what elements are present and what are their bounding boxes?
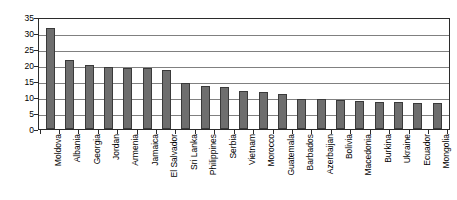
bar bbox=[413, 103, 422, 129]
bar-slot bbox=[176, 19, 195, 129]
bar-slot bbox=[99, 19, 118, 129]
bar bbox=[375, 102, 384, 129]
bar bbox=[355, 101, 364, 129]
plot-area bbox=[38, 18, 450, 130]
bar-slot bbox=[292, 19, 311, 129]
bar bbox=[239, 91, 248, 129]
x-axis-label-slot: Ecuador bbox=[409, 134, 428, 198]
bar bbox=[317, 99, 326, 129]
y-axis-tick-labels: 05101520253035 bbox=[0, 18, 34, 130]
x-axis-label-slot: Mongolia bbox=[428, 134, 447, 198]
x-axis-category-labels: MoldovaAlbaniaGeorgiaJordanArmeniaJamaic… bbox=[38, 134, 450, 198]
bar-slot bbox=[196, 19, 215, 129]
x-axis-label-slot: Jordan bbox=[98, 134, 117, 198]
x-axis-label-slot: Ukraine bbox=[390, 134, 409, 198]
bar bbox=[201, 86, 210, 129]
bar bbox=[220, 87, 229, 129]
bar bbox=[123, 68, 132, 129]
bar bbox=[394, 102, 403, 129]
x-axis-category-label: Mongolia bbox=[442, 134, 451, 169]
y-axis-tick-label: 25 bbox=[25, 46, 34, 55]
bar-slot bbox=[80, 19, 99, 129]
bar-slot bbox=[428, 19, 447, 129]
bar-chart: 05101520253035 MoldovaAlbaniaGeorgiaJord… bbox=[0, 0, 457, 200]
x-axis-label-slot: Philippines bbox=[195, 134, 214, 198]
bar-slot bbox=[157, 19, 176, 129]
bar-slot bbox=[215, 19, 234, 129]
bar-slot bbox=[331, 19, 350, 129]
bar bbox=[433, 103, 442, 129]
bar-slot bbox=[273, 19, 292, 129]
bar-slot bbox=[370, 19, 389, 129]
x-axis-label-slot: Morocco bbox=[254, 134, 273, 198]
x-axis-label-slot: Albania bbox=[59, 134, 78, 198]
y-axis-tick-label: 20 bbox=[25, 62, 34, 71]
x-axis-label-slot: Azerbaijan bbox=[312, 134, 331, 198]
x-axis-label-slot: Burkina bbox=[370, 134, 389, 198]
bar bbox=[181, 83, 190, 129]
x-axis-label-slot: Jamaica bbox=[137, 134, 156, 198]
y-axis-tick-label: 30 bbox=[25, 30, 34, 39]
bar bbox=[65, 60, 74, 129]
x-axis-label-slot: Sri Lanka bbox=[176, 134, 195, 198]
bar-slot bbox=[118, 19, 137, 129]
x-axis-label-slot: Guatemala bbox=[273, 134, 292, 198]
x-axis-label-slot: Moldova bbox=[40, 134, 59, 198]
bar-slot bbox=[234, 19, 253, 129]
bar bbox=[162, 70, 171, 129]
bar-series bbox=[39, 19, 449, 129]
bar-slot bbox=[254, 19, 273, 129]
bar bbox=[336, 100, 345, 129]
bar bbox=[259, 92, 268, 129]
bar bbox=[46, 28, 55, 129]
bar-slot bbox=[41, 19, 60, 129]
x-axis-label-slot: Macedonia bbox=[351, 134, 370, 198]
bar bbox=[85, 65, 94, 129]
x-axis-label-slot: Barbados bbox=[292, 134, 311, 198]
bar-slot bbox=[350, 19, 369, 129]
bar-slot bbox=[60, 19, 79, 129]
bar-slot bbox=[408, 19, 427, 129]
x-axis-label-slot: El Salvador bbox=[157, 134, 176, 198]
y-axis-tick-label: 35 bbox=[25, 14, 34, 23]
bar bbox=[297, 99, 306, 129]
bar bbox=[278, 94, 287, 129]
y-axis-tick-label: 10 bbox=[25, 94, 34, 103]
bar-slot bbox=[389, 19, 408, 129]
y-axis-tick-label: 15 bbox=[25, 78, 34, 87]
bar bbox=[104, 67, 113, 129]
x-axis-label-slot: Serbia bbox=[215, 134, 234, 198]
bar-slot bbox=[138, 19, 157, 129]
x-axis-label-slot: Bolivia bbox=[331, 134, 350, 198]
x-axis-label-slot: Vietnam bbox=[234, 134, 253, 198]
bar-slot bbox=[312, 19, 331, 129]
x-axis-label-slot: Armenia bbox=[118, 134, 137, 198]
bar bbox=[143, 68, 152, 129]
x-axis-label-slot: Georgia bbox=[79, 134, 98, 198]
